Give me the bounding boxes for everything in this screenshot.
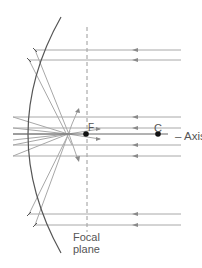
focal-plane-label-line2: plane — [73, 243, 100, 255]
focal-plane-label-line1: Focal — [73, 231, 100, 243]
axis-label: – Axis — [175, 130, 202, 142]
center-label: C — [154, 122, 162, 134]
focus-label: F — [88, 122, 94, 134]
focal-plane-label: Focal plane — [73, 231, 100, 255]
ray-arrowheads — [132, 48, 138, 227]
mirror-ray-diagram — [0, 0, 202, 268]
